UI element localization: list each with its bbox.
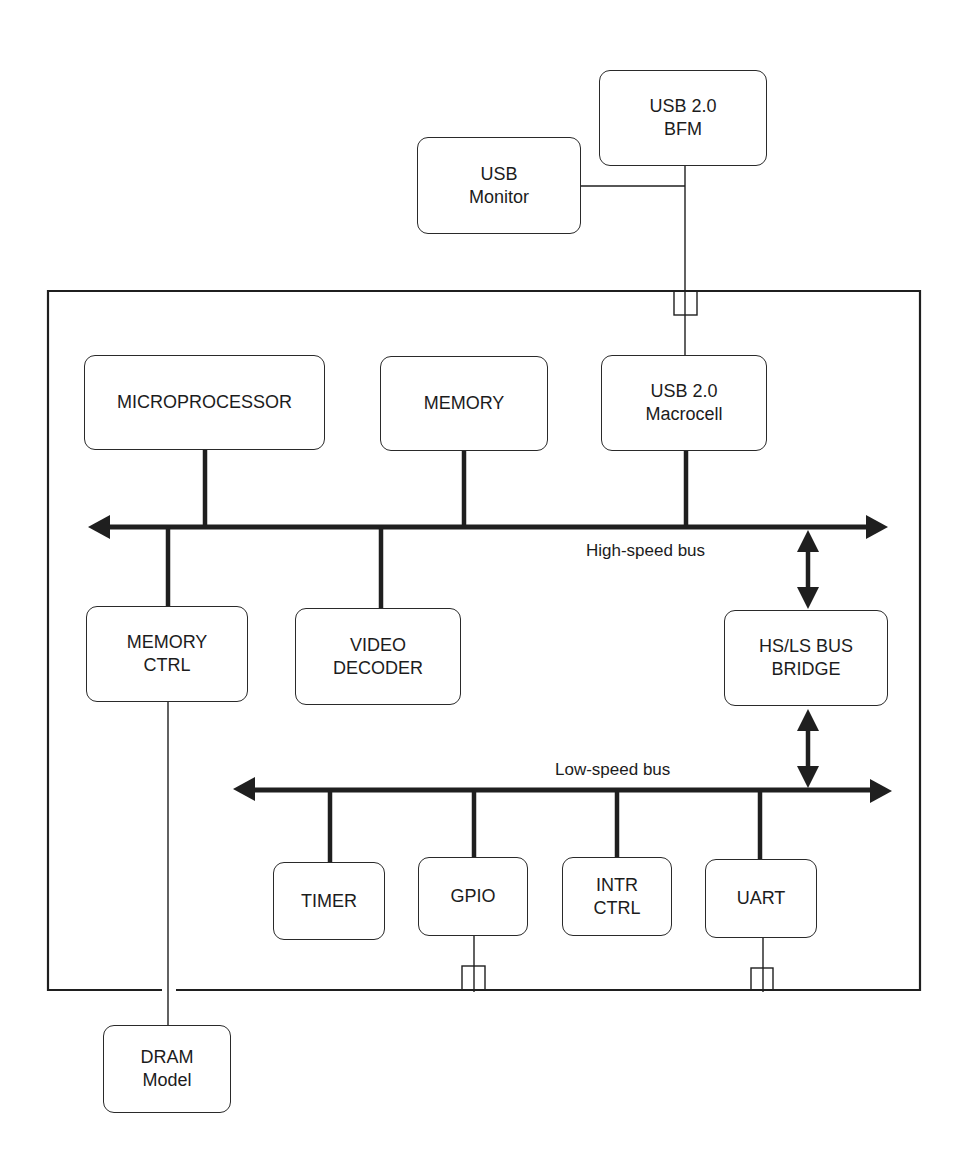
usb-external-wiring bbox=[581, 166, 697, 355]
video-decoder-block: VIDEO DECODER bbox=[295, 608, 461, 705]
uart-block: UART bbox=[705, 859, 817, 938]
high-speed-bus bbox=[88, 450, 888, 608]
usb-bfm-block: USB 2.0 BFM bbox=[599, 70, 767, 166]
intr-ctrl-block: INTR CTRL bbox=[562, 857, 672, 936]
low-speed-bus bbox=[233, 777, 892, 862]
usb-monitor-block: USB Monitor bbox=[417, 137, 581, 234]
microprocessor-block: MICROPROCESSOR bbox=[84, 355, 325, 450]
usb-macrocell-block: USB 2.0 Macrocell bbox=[601, 355, 767, 451]
memory-block: MEMORY bbox=[380, 356, 548, 451]
high-speed-bus-label: High-speed bus bbox=[586, 541, 705, 561]
low-speed-bus-label: Low-speed bus bbox=[555, 760, 670, 780]
timer-block: TIMER bbox=[273, 862, 385, 940]
bus-bridge-block: HS/LS BUS BRIDGE bbox=[724, 610, 888, 706]
memory-ctrl-block: MEMORY CTRL bbox=[86, 606, 248, 702]
dram-model-block: DRAM Model bbox=[103, 1025, 231, 1113]
gpio-block: GPIO bbox=[418, 857, 528, 936]
uart-port-pad bbox=[751, 968, 773, 990]
